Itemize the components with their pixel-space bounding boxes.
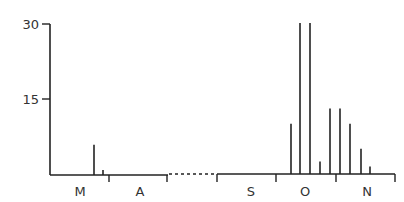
month-label-s: S bbox=[247, 184, 255, 199]
bar-series bbox=[94, 23, 370, 175]
month-label-a: A bbox=[136, 184, 145, 199]
month-label-n: N bbox=[362, 184, 372, 199]
y-tick-label-15: 15 bbox=[22, 92, 39, 107]
month-label-o: O bbox=[300, 184, 310, 199]
bar-chart: 30 15 M A S O N bbox=[0, 0, 404, 202]
month-label-m: M bbox=[74, 184, 85, 199]
y-tick-label-30: 30 bbox=[22, 17, 39, 32]
